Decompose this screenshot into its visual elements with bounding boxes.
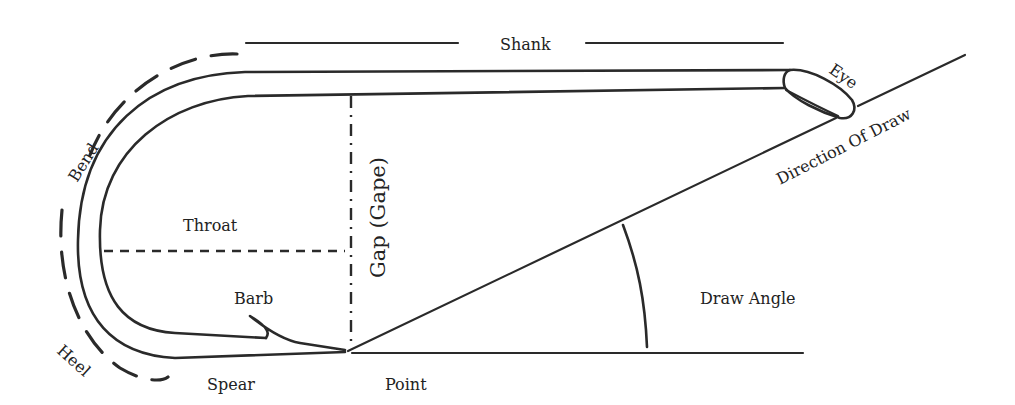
- label-draw-angle: Draw Angle: [700, 289, 795, 308]
- draw-angle-arc: [623, 225, 647, 347]
- direction-of-draw-line: [348, 118, 836, 351]
- barb: [250, 316, 345, 350]
- bend-indicator-arc: [90, 54, 237, 155]
- label-heel: Heel: [53, 341, 94, 381]
- label-barb: Barb: [234, 289, 273, 308]
- hook-outer-wire: [78, 70, 790, 358]
- direction-of-draw-extension: [858, 55, 965, 106]
- label-throat: Throat: [183, 216, 238, 235]
- label-point: Point: [385, 375, 427, 394]
- hook-diagram: Shank Eye Direction Of Draw Bend Throat …: [0, 0, 1015, 405]
- label-bend: Bend: [64, 140, 102, 186]
- hook-inner-wire: [100, 88, 785, 338]
- label-shank: Shank: [500, 35, 551, 54]
- label-gap: Gap (Gape): [366, 157, 390, 278]
- label-eye: Eye: [826, 60, 862, 93]
- label-spear: Spear: [207, 375, 255, 394]
- hook-eye-inner: [786, 90, 838, 116]
- label-direction-of-draw: Direction Of Draw: [773, 104, 914, 188]
